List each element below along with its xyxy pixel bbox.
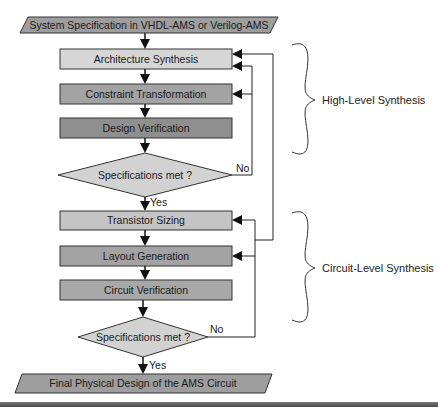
high-level-brace [292, 44, 315, 154]
step-label: Constraint Transformation [86, 88, 207, 100]
feedback-circuit-to-arch [234, 54, 273, 240]
step-label: Circuit Verification [104, 284, 188, 296]
bottom-divider [0, 402, 438, 407]
output-final-design-node: Final Physical Design of the AMS Circuit [15, 374, 272, 393]
circuit-level-brace [292, 212, 315, 322]
input-spec-label: System Specification in VHDL-AMS or Veri… [29, 19, 268, 31]
decision-circuit-level: Specifications met ? [78, 317, 208, 357]
step-circuit-verification: Circuit Verification [60, 280, 232, 300]
decision-label: Specifications met ? [98, 169, 192, 181]
circuit-level-synthesis-label: Circuit-Level Synthesis [322, 262, 434, 274]
step-label: Layout Generation [103, 250, 190, 262]
no-label: No [210, 323, 224, 335]
high-level-synthesis-label: High-Level Synthesis [322, 94, 426, 106]
step-design-verification: Design Verification [60, 118, 232, 138]
output-label: Final Physical Design of the AMS Circuit [49, 377, 236, 389]
step-architecture-synthesis: Architecture Synthesis [60, 49, 232, 69]
step-label: Architecture Synthesis [94, 53, 198, 65]
step-label: Transistor Sizing [107, 214, 185, 226]
step-constraint-transformation: Constraint Transformation [60, 84, 232, 104]
step-label: Design Verification [103, 122, 190, 134]
feedback-no-sizing [208, 220, 255, 337]
step-layout-generation: Layout Generation [60, 246, 232, 266]
flowchart: System Specification in VHDL-AMS or Veri… [0, 0, 438, 407]
decision-label: Specifications met ? [96, 331, 190, 343]
step-transistor-sizing: Transistor Sizing [60, 211, 232, 230]
feedback-no-arch [232, 66, 252, 175]
yes-label: Yes [149, 359, 166, 371]
input-spec-node: System Specification in VHDL-AMS or Veri… [20, 17, 278, 33]
no-label: No [236, 162, 250, 174]
yes-label: Yes [150, 196, 167, 208]
decision-high-level: Specifications met ? [58, 153, 232, 197]
